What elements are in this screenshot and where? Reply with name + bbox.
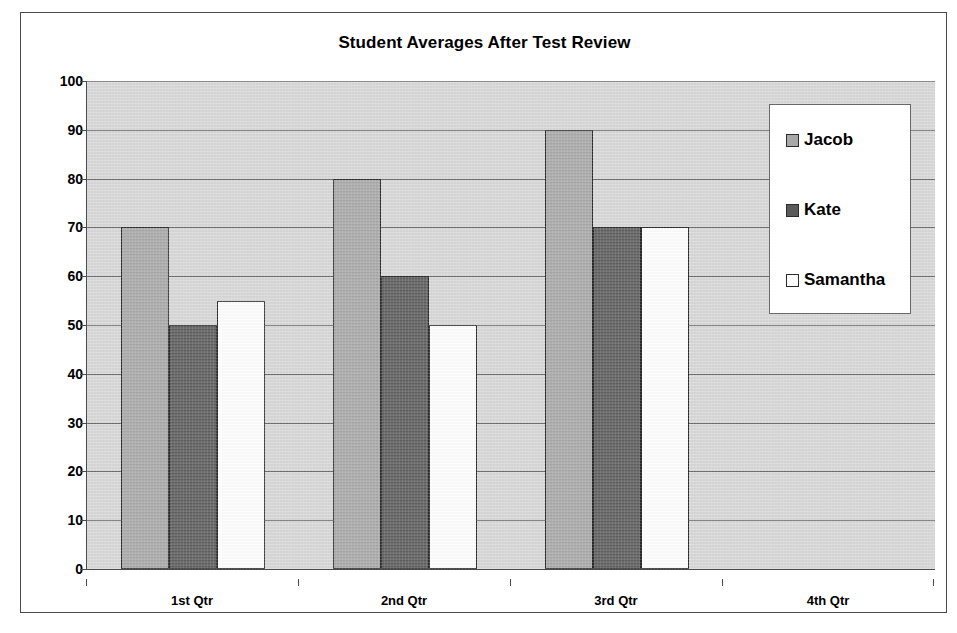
x-axis-tick-label: 1st Qtr (171, 593, 213, 608)
legend-item-jacob[interactable]: Jacob (786, 130, 853, 150)
y-axis-tick-label: 10 (37, 512, 83, 528)
bar[interactable] (641, 227, 689, 569)
bar-texture-overlay (546, 131, 592, 568)
legend-label: Jacob (804, 130, 853, 150)
bar-texture-overlay (594, 228, 640, 568)
bar-texture-overlay (334, 180, 380, 568)
y-axis-tick-label: 0 (37, 561, 83, 577)
chart-frame: Student Averages After Test Review 01020… (20, 12, 947, 613)
y-axis-tick-labels: 0102030405060708090100 (31, 81, 83, 569)
y-axis-tick-label: 70 (37, 219, 83, 235)
y-axis-tick-label: 60 (37, 268, 83, 284)
y-axis-tick-label: 40 (37, 366, 83, 382)
bar-texture-overlay (382, 277, 428, 568)
x-axis-tick-mark (722, 579, 723, 586)
bar[interactable] (333, 179, 381, 569)
legend-label: Samantha (804, 270, 885, 290)
bar[interactable] (545, 130, 593, 569)
legend-swatch-icon (786, 134, 799, 147)
bar-texture-overlay (122, 228, 168, 568)
bar[interactable] (593, 227, 641, 569)
legend-item-kate[interactable]: Kate (786, 200, 841, 220)
legend-label: Kate (804, 200, 841, 220)
chart-title: Student Averages After Test Review (21, 33, 948, 53)
bar[interactable] (429, 325, 477, 569)
gridline (87, 81, 935, 82)
legend-item-samantha[interactable]: Samantha (786, 270, 885, 290)
chart-legend[interactable]: JacobKateSamantha (769, 104, 911, 314)
y-axis-tick-label: 100 (37, 73, 83, 89)
y-axis-tick-label: 90 (37, 122, 83, 138)
x-axis-tick-mark (86, 579, 87, 586)
bar[interactable] (217, 301, 265, 569)
x-axis-tick-label: 4th Qtr (807, 593, 850, 608)
x-axis-tick-labels: 1st Qtr2nd Qtr3rd Qtr4th Qtr (86, 579, 934, 613)
y-axis-tick-label: 50 (37, 317, 83, 333)
bar[interactable] (381, 276, 429, 569)
legend-swatch-icon (786, 274, 799, 287)
legend-swatch-icon (786, 204, 799, 217)
y-axis-tick-label: 80 (37, 171, 83, 187)
y-axis-tick-label: 30 (37, 415, 83, 431)
bar-texture-overlay (170, 326, 216, 568)
x-axis-tick-mark (298, 579, 299, 586)
bar[interactable] (169, 325, 217, 569)
x-axis-tick-label: 3rd Qtr (594, 593, 637, 608)
y-axis-tick-label: 20 (37, 463, 83, 479)
x-axis-tick-mark (933, 579, 934, 586)
bar[interactable] (121, 227, 169, 569)
x-axis-tick-mark (510, 579, 511, 586)
x-axis-tick-label: 2nd Qtr (381, 593, 427, 608)
